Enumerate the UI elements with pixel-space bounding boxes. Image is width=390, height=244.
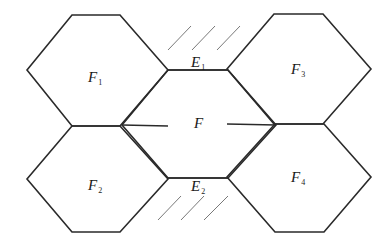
hexagon-diagram: F1F2F3F4FE1E2: [0, 0, 390, 244]
hexagon-face-f2: [27, 126, 168, 232]
edge-e-left: [122, 125, 168, 126]
hatch-line: [181, 196, 204, 220]
face-label-f4: F4: [290, 169, 305, 187]
hatch-line: [204, 196, 228, 220]
edge-e-right: [227, 124, 276, 125]
edge-label-e2: E2: [190, 178, 205, 196]
hatch-line: [158, 196, 181, 220]
hatch-line: [168, 26, 191, 50]
hexagon-face-f1: [27, 15, 168, 126]
hatch-line: [217, 26, 240, 50]
face-label-f1: F1: [87, 69, 102, 87]
hatch-line: [192, 26, 215, 50]
face-label-f: F: [193, 115, 204, 131]
edge-label-e1: E1: [190, 54, 205, 72]
face-label-f3: F3: [290, 61, 305, 79]
face-label-f2: F2: [87, 177, 102, 195]
